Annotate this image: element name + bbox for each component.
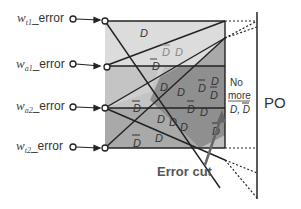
diagram-canvas: wt1_error wa1_error wa2_error wt2_error …: [0, 0, 301, 209]
svg-text:D: D: [177, 86, 185, 98]
gate-node-4: [102, 145, 108, 151]
svg-text:D: D: [169, 116, 177, 128]
svg-text:D: D: [210, 89, 218, 101]
input-arrows: [76, 18, 100, 151]
svg-text:D: D: [180, 121, 188, 133]
svg-text:D: D: [157, 113, 165, 125]
svg-text:D: D: [133, 137, 141, 149]
svg-text:D: D: [133, 102, 141, 114]
svg-text:D: D: [200, 106, 208, 118]
input-label-wt1: wt1_error: [17, 10, 64, 27]
input-label-wa1: wa1_error: [16, 56, 65, 73]
svg-text:D: D: [140, 27, 148, 39]
svg-text:D: D: [175, 46, 183, 58]
input-node-wt1: [70, 16, 76, 22]
po-label: PO: [264, 94, 286, 111]
gate-node-1: [102, 18, 108, 24]
svg-text:D: D: [152, 60, 160, 72]
svg-text:D: D: [155, 132, 163, 144]
svg-text:D: D: [160, 81, 168, 93]
svg-text:D: D: [162, 46, 170, 58]
svg-text:D: D: [187, 103, 195, 115]
input-label-wa2: wa2_error: [16, 98, 65, 115]
gate-node-2: [104, 64, 110, 70]
svg-text:D, D: D, D: [230, 104, 250, 115]
input-node-wt2: [70, 144, 76, 150]
no-more-note: No more D, D: [228, 77, 251, 115]
input-label-wt2: wt2_error: [16, 138, 63, 155]
input-node-wa2: [70, 104, 76, 110]
svg-text:D: D: [211, 75, 219, 87]
svg-text:No: No: [230, 77, 243, 88]
gate-node-3: [102, 105, 108, 111]
svg-text:D: D: [198, 82, 206, 94]
error-cut-label: Error cut: [157, 164, 213, 179]
input-labels: wt1_error wa1_error wa2_error wt2_error: [16, 10, 65, 155]
input-nodes: [70, 16, 110, 151]
input-node-wa1: [70, 61, 76, 67]
svg-text:more: more: [228, 90, 251, 101]
